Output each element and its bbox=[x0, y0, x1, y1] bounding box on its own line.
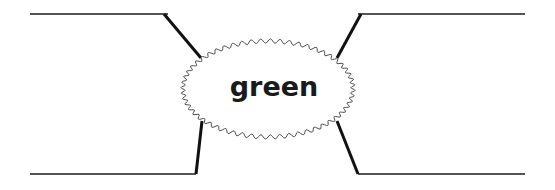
diagram-svg: green bbox=[0, 0, 555, 190]
node-label: green bbox=[230, 71, 319, 102]
upper-right-diagonal bbox=[337, 14, 361, 58]
upper-left-diagonal bbox=[164, 14, 201, 58]
lower-right-diagonal bbox=[337, 121, 358, 174]
diagram-canvas: green bbox=[0, 0, 555, 190]
lower-left-diagonal bbox=[196, 121, 202, 174]
